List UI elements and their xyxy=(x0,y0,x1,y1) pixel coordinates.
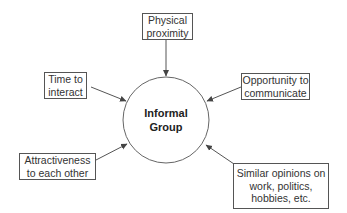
factor-label-line: communicate xyxy=(244,87,306,100)
factor-box-attractiveness: Attractiveness to each other xyxy=(19,153,96,180)
center-label-informal-group: Informal Group xyxy=(124,106,208,134)
factor-label-line: Time to xyxy=(48,73,83,86)
factor-box-opportunity-to-communicate: Opportunity to communicate xyxy=(241,73,310,100)
center-label-line: Informal xyxy=(124,106,208,120)
factor-label-line: hobbies, etc. xyxy=(251,192,311,205)
factor-box-time-to-interact: Time to interact xyxy=(44,72,87,99)
center-label-line: Group xyxy=(124,120,208,134)
factor-label-line: Opportunity to xyxy=(243,74,309,87)
factor-box-similar-opinions: Similar opinions on work, politics, hobb… xyxy=(233,163,329,209)
factor-label-line: work, politics, xyxy=(249,180,312,193)
arrow-opportunity-to-communicate xyxy=(207,87,241,101)
factor-label-line: Attractiveness xyxy=(25,154,91,167)
arrow-attractiveness xyxy=(96,144,127,160)
factor-label-line: proximity xyxy=(146,27,188,40)
factor-label-line: to each other xyxy=(27,167,88,180)
factor-box-physical-proximity: Physical proximity xyxy=(142,13,193,40)
arrow-time-to-interact xyxy=(91,87,126,101)
factor-label-line: Physical xyxy=(148,14,187,27)
factor-label-line: Similar opinions on xyxy=(237,167,326,180)
factor-label-line: interact xyxy=(48,86,82,99)
arrow-similar-opinions xyxy=(206,145,234,164)
